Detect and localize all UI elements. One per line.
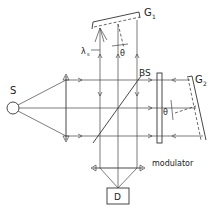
theta-2: θ bbox=[163, 100, 196, 120]
ray-upper bbox=[18, 80, 66, 105]
ray-lower bbox=[18, 111, 66, 136]
modulator: modulator bbox=[152, 73, 194, 168]
svg-text:1: 1 bbox=[152, 13, 156, 20]
lambda-label: λ bbox=[81, 47, 86, 56]
svg-text:2: 2 bbox=[203, 80, 207, 87]
diffracted-rays: λ s bbox=[81, 28, 107, 57]
theta-1-label: θ bbox=[120, 49, 125, 58]
theta-2-label: θ bbox=[163, 108, 168, 117]
modulator-label: modulator bbox=[152, 159, 194, 168]
grating-1: G 1 bbox=[92, 7, 156, 29]
grating-2: G 2 bbox=[187, 74, 207, 140]
ray-to-detector-left bbox=[100, 168, 118, 188]
beamsplitter: BS bbox=[93, 68, 151, 143]
source: S bbox=[7, 85, 19, 114]
grating-1-label: G bbox=[144, 7, 152, 18]
interferometer-diagram: S BS G 1 λ bbox=[0, 0, 220, 209]
ray-to-detector-right bbox=[118, 168, 137, 188]
detector: D bbox=[107, 188, 129, 204]
theta-1: θ bbox=[112, 24, 128, 58]
source-label: S bbox=[10, 85, 16, 96]
grating-2-label: G bbox=[195, 74, 203, 85]
beamsplitter-label: BS bbox=[139, 68, 151, 78]
detector-label: D bbox=[114, 192, 121, 202]
svg-text:s: s bbox=[87, 51, 90, 57]
